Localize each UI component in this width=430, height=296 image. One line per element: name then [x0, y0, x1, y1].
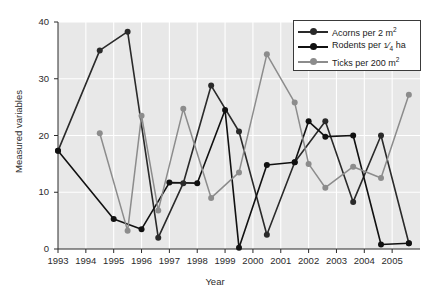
y-tick-label-20: 20 [27, 130, 49, 141]
y-tick-label-10: 10 [27, 186, 49, 197]
legend-item-ticks[interactable]: Ticks per 200 m2 [298, 54, 416, 69]
y-axis-label: Measured variables [13, 72, 24, 192]
legend-label: Acorns per 2 m2 [332, 24, 397, 39]
y-tick-label-40: 40 [27, 16, 49, 27]
y-tick-label-30: 30 [27, 73, 49, 84]
chart-legend: Acorns per 2 m2Rodents per 1⁄4 haTicks p… [293, 20, 421, 71]
x-tick-label-2005: 2005 [375, 255, 409, 266]
legend-label: Ticks per 200 m2 [332, 54, 399, 69]
x-axis-label: Year [0, 276, 430, 287]
legend-label: Rodents per 1⁄4 ha [332, 40, 406, 54]
legend-marker-icon [298, 41, 328, 52]
legend-item-acorns[interactable]: Acorns per 2 m2 [298, 24, 416, 39]
legend-item-rodents[interactable]: Rodents per 1⁄4 ha [298, 39, 416, 54]
y-tick-label-0: 0 [27, 243, 49, 254]
legend-marker-icon [298, 26, 328, 37]
legend-marker-icon [298, 56, 328, 67]
chart-figure: Measured variables Year 1993199419951996… [0, 0, 430, 296]
